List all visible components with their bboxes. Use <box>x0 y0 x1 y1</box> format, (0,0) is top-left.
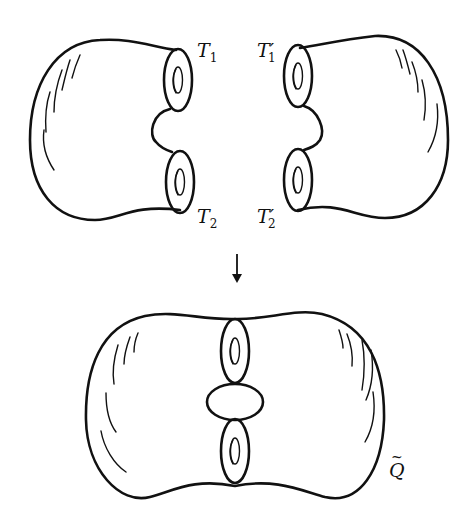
label-t1: T1 <box>197 39 217 65</box>
diagram-canvas: T1 T2 T′1 T′2 <box>0 0 475 521</box>
right-surface <box>284 36 448 218</box>
central-hole <box>207 384 263 420</box>
label-t1-prime: T′1 <box>257 39 276 65</box>
torus-t1-prime <box>284 45 312 107</box>
left-cap <box>152 109 172 152</box>
label-t2-prime: T′2 <box>257 205 276 231</box>
torus-t1 <box>164 49 192 111</box>
right-cap <box>304 106 322 150</box>
label-t2: T2 <box>197 205 217 231</box>
torus-t2 <box>166 151 194 213</box>
q-outline <box>86 312 384 498</box>
glued-torus-upper <box>221 319 249 383</box>
down-arrow-icon <box>232 254 242 283</box>
label-q-tilde: Q ~ <box>389 449 405 481</box>
svg-text:~: ~ <box>391 449 403 465</box>
left-surface <box>30 40 194 220</box>
left-surface-outline <box>30 40 180 220</box>
glued-surface-q <box>86 312 384 498</box>
torus-t2-prime <box>284 149 312 211</box>
glued-torus-lower <box>221 419 249 483</box>
